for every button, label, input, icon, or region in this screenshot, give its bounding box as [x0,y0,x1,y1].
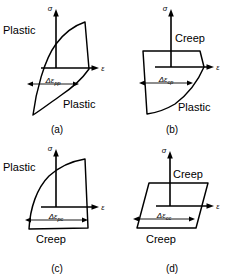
delta-strain-subscript: cp [168,79,174,85]
region-label-upper: Creep [175,32,205,44]
panel-a-diagram: σ ε Δεpp Plastic Plastic (a) [0,0,115,138]
panel-b-diagram: σ ε Δεcp Creep Plastic (b) [115,0,230,138]
delta-arrow-right [189,217,195,222]
sigma-axis-label: σ [48,144,53,153]
epsilon-axis-label: ε [101,64,105,73]
region-label-lower: Plastic [63,98,96,110]
epsilon-axis-arrow [92,65,100,71]
panel-b: σ ε Δεcp Creep Plastic (b) [115,0,230,138]
panel-caption-c: (c) [51,263,63,274]
panel-caption-a: (a) [51,124,63,135]
sigma-axis-label: σ [48,4,53,13]
epsilon-axis-arrow [207,64,215,70]
sigma-axis-label: σ [163,4,168,13]
region-label-lower: Plastic [178,101,211,113]
delta-strain-label-pc: Δεpc [48,212,64,222]
delta-strain-subscript: pc [57,216,64,222]
sigma-axis-arrow [53,9,59,17]
panel-c: σ ε Δεpc Plastic Creep (c) [0,138,115,276]
epsilon-axis-arrow [207,203,215,209]
region-label-lower: Creep [146,233,176,245]
region-label-upper: Plastic [3,161,36,173]
panel-grid: σ ε Δεpp Plastic Plastic (a) [0,0,230,277]
epsilon-axis-label: ε [216,202,220,211]
delta-strain-label-cc: Δεcc [156,211,172,221]
epsilon-axis-arrow [92,204,100,210]
region-label-upper: Creep [173,168,203,180]
sigma-axis-arrow [168,9,174,17]
delta-strain-subscript: cc [166,215,172,221]
delta-strain-symbol: Δε [48,212,58,221]
delta-arrow-right [187,81,193,86]
panel-caption-d: (d) [166,263,178,274]
panel-d: σ ε Δεcc Creep Creep (d) [115,138,230,276]
sigma-axis-label: σ [162,146,167,155]
epsilon-axis-label: ε [101,203,105,212]
sigma-axis-arrow [53,149,59,157]
delta-strain-subscript: pp [53,80,60,86]
sigma-axis-arrow [167,151,173,159]
region-label-upper: Plastic [3,24,36,36]
delta-arrow-left [139,81,145,86]
delta-strain-symbol: Δε [44,76,54,85]
delta-strain-symbol: Δε [158,75,168,84]
region-label-lower: Creep [36,233,66,245]
delta-strain-label-pp: Δεpp [44,76,60,86]
delta-strain-label-cp: Δεcp [158,75,174,85]
panel-c-diagram: σ ε Δεpc Plastic Creep (c) [0,138,115,277]
delta-arrow-left [133,217,139,222]
delta-arrow-left [25,218,31,223]
panel-a: σ ε Δεpp Plastic Plastic (a) [0,0,115,138]
epsilon-axis-label: ε [216,63,220,72]
delta-strain-symbol: Δε [156,211,166,220]
figure-root: σ ε Δεpp Plastic Plastic (a) [0,0,230,277]
delta-arrow-left [27,82,33,87]
panel-caption-b: (b) [166,124,178,135]
panel-d-diagram: σ ε Δεcc Creep Creep (d) [115,138,230,277]
